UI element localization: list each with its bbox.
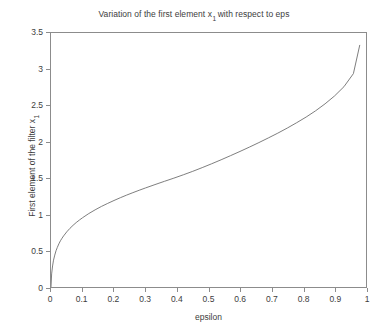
figure-canvas: Variation of the first element x1with re… — [0, 0, 388, 334]
x-tick-mark — [50, 288, 51, 292]
x-tick-label: 0 — [48, 294, 53, 304]
x-tick-mark — [209, 288, 210, 292]
y-tick-mark — [46, 288, 50, 289]
x-tick-label: 0.7 — [266, 294, 278, 304]
x-tick-label: 0.3 — [139, 294, 151, 304]
x-tick-label: 1 — [365, 294, 370, 304]
data-line-series — [51, 33, 366, 287]
chart-title-subscript: 1 — [212, 15, 218, 22]
x-tick-mark — [177, 288, 178, 292]
chart-title-prefix: Variation of the first element x — [99, 9, 212, 19]
y-tick-label: 0.5 — [10, 246, 43, 256]
x-tick-label: 0.2 — [107, 294, 119, 304]
x-tick-label: 0.4 — [171, 294, 183, 304]
x-tick-label: 0.6 — [234, 294, 246, 304]
y-tick-label: 0 — [10, 283, 43, 293]
x-axis-label: epsilon — [50, 312, 367, 322]
x-tick-mark — [335, 288, 336, 292]
x-tick-label: 0.8 — [298, 294, 310, 304]
y-axis-label-subscript: 1 — [33, 115, 40, 119]
y-axis-label: First element of the filter x1 — [27, 86, 39, 246]
x-tick-mark — [272, 288, 273, 292]
y-axis-label-prefix: First element of the filter x — [27, 119, 37, 217]
x-tick-label: 0.5 — [203, 294, 215, 304]
x-tick-mark — [367, 288, 368, 292]
x-tick-mark — [82, 288, 83, 292]
plot-area — [50, 32, 367, 288]
x-tick-mark — [240, 288, 241, 292]
y-tick-label: 3 — [10, 64, 43, 74]
chart-title-suffix: with respect to eps — [218, 9, 290, 19]
x-tick-mark — [304, 288, 305, 292]
x-tick-mark — [113, 288, 114, 292]
chart-title: Variation of the first element x1with re… — [0, 9, 388, 21]
x-tick-label: 0.1 — [76, 294, 88, 304]
y-tick-label: 3.5 — [10, 27, 43, 37]
x-tick-mark — [145, 288, 146, 292]
x-tick-label: 0.9 — [329, 294, 341, 304]
